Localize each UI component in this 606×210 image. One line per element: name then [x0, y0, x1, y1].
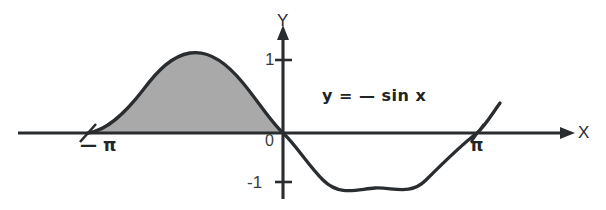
- x-tick-label-negative-pi: — π: [80, 137, 116, 154]
- equation-annotation: y = — sin x: [322, 88, 426, 104]
- origin-label: 0: [265, 133, 274, 149]
- y-tick-label-one: 1: [265, 51, 274, 68]
- x-axis-label: X: [578, 124, 589, 141]
- y-tick-label-negative-one: -1: [247, 174, 262, 191]
- shaded-area-region: [88, 53, 283, 133]
- sine-plot-figure: Y X 1 -1 0 — π π y = — sin x: [0, 0, 606, 210]
- x-tick-label-positive-pi: π: [470, 137, 483, 154]
- plot-canvas: [0, 0, 606, 210]
- x-axis-arrowhead: [560, 127, 575, 139]
- y-axis-label: Y: [277, 12, 288, 29]
